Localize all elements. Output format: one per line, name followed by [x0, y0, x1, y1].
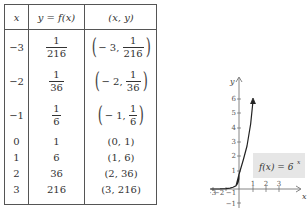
- y-tick-label: 6: [232, 95, 237, 103]
- function-label: f(x) = 6: [258, 162, 294, 172]
- cell-point: (− 3, 1216): [85, 30, 157, 64]
- cell-x: 3: [5, 181, 28, 197]
- cell-point: (− 1, 16): [85, 98, 157, 132]
- cell-x: 0: [5, 133, 28, 149]
- cell-x: 1: [5, 149, 28, 165]
- cell-point: (− 2, 136): [85, 64, 157, 98]
- x-tick-label: −1: [226, 189, 236, 197]
- x-axis-label: x: [302, 192, 307, 201]
- fraction: 1216: [46, 36, 67, 59]
- x-tick-label: −2: [214, 189, 224, 197]
- values-table: x y = f(x) (x, y) −3 1216 (− 3, 1216) −2…: [4, 4, 157, 205]
- header-y: y = f(x): [29, 5, 84, 29]
- cell-x: 2: [5, 165, 28, 181]
- cell-y: 216: [29, 181, 84, 197]
- y-tick-label: 5: [232, 109, 236, 117]
- exponential-graph: f(x) = 6 x x y −3 −2 −1 1 2 3 6 5 4 3 2 …: [210, 70, 307, 217]
- header-x: x: [5, 5, 28, 29]
- cell-x: −3: [5, 30, 28, 64]
- y-tick-label: −1: [226, 200, 236, 208]
- cell-y: 1: [29, 133, 84, 149]
- fraction: 136: [49, 70, 64, 93]
- y-tick-label: 3: [232, 138, 236, 146]
- y-axis-label: y: [229, 77, 235, 86]
- y-tick-label: 2: [232, 152, 236, 160]
- cell-y: 136: [29, 64, 84, 98]
- cell-x: −2: [5, 64, 28, 98]
- cell-y: 1216: [29, 30, 84, 64]
- cell-x: −1: [5, 98, 28, 132]
- x-tick-label: 3: [277, 180, 281, 188]
- curve-arrow-icon: [251, 98, 256, 104]
- cell-y: 36: [29, 165, 84, 181]
- cell-y: 16: [29, 98, 84, 132]
- cell-y: 6: [29, 149, 84, 165]
- y-tick-label: 1: [232, 167, 236, 175]
- fraction: 16: [52, 104, 60, 127]
- x-tick-label: 1: [251, 180, 255, 188]
- x-tick-label: 2: [264, 180, 268, 188]
- y-tick-label: 4: [232, 124, 237, 132]
- cell-point: (0, 1): [85, 133, 157, 149]
- cell-point: (1, 6): [85, 149, 157, 165]
- cell-point: (3, 216): [85, 181, 157, 197]
- header-point: (x, y): [85, 5, 157, 29]
- cell-point: (2, 36): [85, 165, 157, 181]
